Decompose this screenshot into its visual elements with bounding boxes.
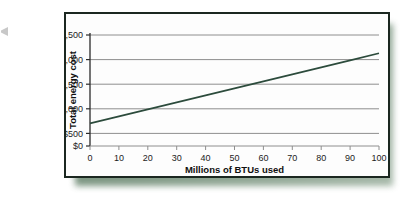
x-tick-label: 60 [258,153,268,163]
x-tick-label: 30 [172,153,182,163]
y-tick-label: $2,500 [66,30,83,40]
x-tick-label: 10 [114,153,124,163]
page-edge-artifact [1,27,8,36]
x-tick-label: 80 [316,153,326,163]
x-tick-label: 70 [287,153,297,163]
x-tick-label: 0 [87,153,92,163]
y-tick-label: $500 [66,129,83,139]
x-tick-marks [90,146,379,150]
chart-figure-frame: $2,500 $2,000 $1,500 $1,000 $500 $0 0 10… [64,12,390,178]
x-tick-label: 100 [371,153,386,163]
x-tick-labels: 0 10 20 30 40 50 60 70 80 90 100 [87,153,386,163]
x-tick-label: 40 [201,153,211,163]
x-tick-label: 90 [345,153,355,163]
y-gridlines [90,35,379,133]
y-axis-title: Total energy cost [67,50,78,129]
x-tick-label: 20 [143,153,153,163]
x-tick-label: 50 [229,153,239,163]
energy-cost-line-chart: $2,500 $2,000 $1,500 $1,000 $500 $0 0 10… [66,14,388,176]
x-axis-title: Millions of BTUs used [185,164,284,175]
y-tick-label: $0 [73,141,83,151]
cost-line-series [90,53,379,123]
